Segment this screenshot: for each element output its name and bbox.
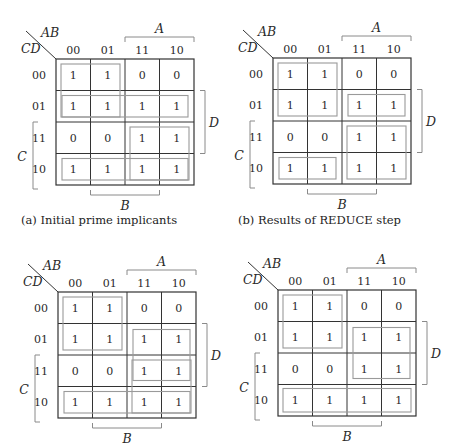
column-header: 01 (101, 44, 115, 57)
cell-value: 1 (321, 99, 328, 112)
row-header: 11 (34, 365, 48, 378)
row-variables-label: CD (243, 272, 263, 287)
column-header: 01 (318, 43, 332, 56)
cell-value: 1 (361, 363, 368, 376)
row-header: 01 (32, 100, 46, 113)
column-header: 00 (288, 275, 302, 288)
cell-value: 0 (72, 365, 79, 378)
cell-value: 1 (141, 396, 148, 409)
cell-value: 1 (70, 100, 77, 113)
cell-value: 1 (287, 162, 294, 175)
cell-value: 0 (326, 363, 333, 376)
row-variables-label: CD (238, 40, 258, 55)
cell-value: 0 (173, 69, 180, 82)
cell-value: 1 (390, 131, 397, 144)
kmap-svg: ABCD00011110000111101100111100111111ABCD (2, 233, 242, 447)
karnaugh-map-c: ABCD00011110000111101100111100111111ABCD (2, 233, 242, 447)
row-header: 00 (34, 302, 48, 315)
label-a: A (376, 252, 386, 267)
column-header: 11 (352, 43, 366, 56)
cell-value: 1 (390, 162, 397, 175)
row-header: 01 (254, 331, 268, 344)
bracket-b (313, 421, 382, 426)
cell-value: 1 (173, 132, 180, 145)
column-header: 11 (137, 277, 151, 290)
karnaugh-map-a: ABCD00011110000111101100111100111111ABCD (0, 0, 240, 219)
bracket-d (200, 91, 205, 154)
label-d: D (425, 114, 436, 129)
cell-value: 1 (321, 68, 328, 81)
column-header: 10 (387, 43, 401, 56)
label-b: B (336, 197, 346, 212)
cell-value: 1 (395, 363, 402, 376)
cell-value: 1 (356, 99, 363, 112)
bracket-b (91, 190, 160, 195)
row-header: 10 (254, 394, 268, 407)
row-header: 01 (34, 333, 48, 346)
cell-value: 1 (395, 394, 402, 407)
karnaugh-map-b: ABCD00011110000111101100111100111111ABCD (217, 0, 457, 218)
cell-value: 1 (175, 333, 182, 346)
label-c: C (234, 148, 244, 163)
cell-value: 0 (141, 302, 148, 315)
caption-b: (b) Results of REDUCE step (238, 213, 401, 227)
cell-value: 0 (139, 69, 146, 82)
row-variables-label: CD (23, 274, 43, 289)
column-header: 01 (323, 275, 337, 288)
row-header: 10 (249, 162, 263, 175)
column-header: 00 (283, 43, 297, 56)
cell-value: 1 (72, 396, 79, 409)
kmap-svg: ABCD00011110000111101100111100111111ABCD (222, 231, 462, 446)
cell-value: 0 (321, 131, 328, 144)
cell-value: 1 (70, 69, 77, 82)
cell-value: 0 (70, 132, 77, 145)
label-a: A (371, 20, 381, 35)
cell-value: 1 (287, 68, 294, 81)
cell-value: 1 (395, 331, 402, 344)
label-a: A (154, 21, 164, 36)
cell-value: 1 (326, 394, 333, 407)
column-header: 10 (392, 275, 406, 288)
column-header: 10 (172, 277, 186, 290)
cell-value: 1 (390, 99, 397, 112)
cell-value: 1 (106, 396, 113, 409)
bracket-a (125, 37, 194, 42)
column-header: 11 (357, 275, 371, 288)
kmap-svg: ABCD00011110000111101100111100111111ABCD (0, 0, 240, 215)
karnaugh-map-d: ABCD00011110000111101100111100111111ABCD (222, 231, 462, 447)
cell-value: 1 (173, 163, 180, 176)
cell-value: 1 (361, 394, 368, 407)
column-header: 01 (103, 277, 117, 290)
column-header: 00 (66, 44, 80, 57)
bracket-b (308, 189, 377, 194)
bracket-d (422, 322, 427, 385)
bracket-d (202, 324, 207, 387)
row-header: 10 (32, 163, 46, 176)
cell-value: 0 (287, 131, 294, 144)
cell-value: 1 (292, 300, 299, 313)
column-header: 10 (170, 44, 184, 57)
cell-value: 1 (106, 333, 113, 346)
cell-value: 1 (356, 162, 363, 175)
column-header: 11 (135, 44, 149, 57)
cell-value: 1 (361, 331, 368, 344)
cell-value: 1 (104, 100, 111, 113)
bracket-d (417, 90, 422, 153)
col-variables-label: AB (42, 258, 61, 273)
row-header: 10 (34, 396, 48, 409)
cell-value: 1 (292, 394, 299, 407)
row-header: 00 (249, 68, 263, 81)
cell-value: 1 (292, 331, 299, 344)
label-b: B (121, 431, 131, 446)
bracket-b (93, 423, 162, 428)
cell-value: 0 (361, 300, 368, 313)
cell-value: 1 (139, 100, 146, 113)
column-header: 00 (68, 277, 82, 290)
label-d: D (210, 348, 221, 363)
cell-value: 1 (141, 365, 148, 378)
label-c: C (17, 149, 27, 164)
label-b: B (119, 198, 129, 213)
cell-value: 1 (321, 162, 328, 175)
label-c: C (19, 382, 29, 397)
row-header: 11 (32, 132, 46, 145)
